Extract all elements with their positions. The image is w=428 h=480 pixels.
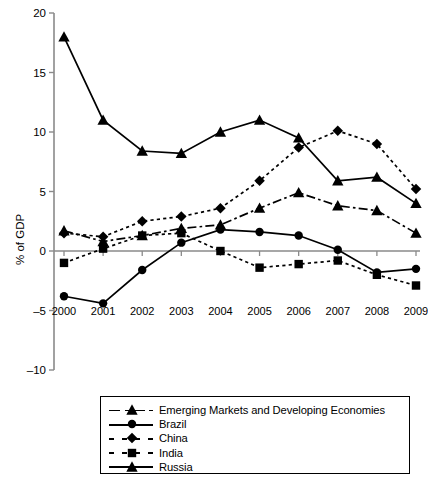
x-tick-label: 2008 <box>365 305 389 317</box>
data-point-square <box>60 259 68 267</box>
data-point-triangle <box>254 114 265 124</box>
legend-item-india[interactable]: India <box>109 446 409 460</box>
x-tick-label: 2007 <box>326 305 350 317</box>
y-tick-label: 20 <box>33 7 46 19</box>
series-china <box>59 126 422 242</box>
data-point-circle <box>60 292 68 300</box>
x-tick-label: 2002 <box>130 305 154 317</box>
legend-key-triangle-icon <box>109 403 153 417</box>
x-tick-label: 2005 <box>247 305 271 317</box>
series-emerging-markets-and-developing-economies <box>58 187 421 246</box>
data-point-square <box>412 281 420 289</box>
data-point-square <box>138 231 146 239</box>
data-point-triangle <box>332 200 343 210</box>
data-point-diamond <box>215 203 226 214</box>
legend-item-china[interactable]: China <box>109 431 409 445</box>
data-point-circle <box>138 266 146 274</box>
data-point-diamond <box>127 433 138 444</box>
legend-key-diamond-icon <box>109 431 153 445</box>
legend-item-emerging-markets-and-developing-economies[interactable]: Emerging Markets and Developing Economie… <box>109 403 409 417</box>
data-point-circle <box>334 246 342 254</box>
data-point-square <box>99 244 107 252</box>
data-point-square <box>334 256 342 264</box>
legend-label: Russia <box>159 461 193 473</box>
data-point-diamond <box>137 216 148 227</box>
x-tick-label: 2009 <box>404 305 428 317</box>
x-tick-label: 2006 <box>286 305 310 317</box>
data-point-diamond <box>59 228 70 239</box>
data-point-triangle <box>126 404 137 414</box>
series-line <box>64 131 416 237</box>
data-point-square <box>294 260 302 268</box>
legend-marker-square-icon <box>126 447 138 459</box>
legend-key-square-icon <box>109 446 153 460</box>
data-point-circle <box>294 231 302 239</box>
data-point-triangle <box>293 187 304 197</box>
y-tick-label: 5 <box>40 186 46 198</box>
y-tick-label: 15 <box>33 67 46 79</box>
data-point-circle <box>412 265 420 273</box>
series-line <box>64 193 416 242</box>
legend-label: China <box>159 432 188 444</box>
data-point-triangle <box>254 202 265 212</box>
x-tick-label: 2003 <box>169 305 193 317</box>
data-point-square <box>216 247 224 255</box>
data-point-square <box>177 229 185 237</box>
legend-marker-triangle-icon <box>126 461 138 473</box>
data-point-square <box>255 263 263 271</box>
legend-marker-circle-icon <box>126 418 138 430</box>
data-point-diamond <box>293 142 304 153</box>
data-point-triangle <box>410 227 421 237</box>
y-tick-label: 0 <box>40 245 46 257</box>
chart-container: % of GDP –10–505101520200020012002200320… <box>0 0 428 480</box>
data-point-circle <box>99 299 107 307</box>
legend-label: India <box>159 447 183 459</box>
chart-legend: Emerging Markets and Developing Economie… <box>100 396 410 474</box>
x-tick-label: 2000 <box>52 305 76 317</box>
y-tick-label: –10 <box>27 364 46 376</box>
legend-item-russia[interactable]: Russia <box>109 460 409 474</box>
data-point-triangle <box>293 132 304 142</box>
data-point-square <box>128 448 136 456</box>
data-point-triangle <box>58 31 69 41</box>
series-india <box>60 229 420 290</box>
data-point-triangle <box>97 114 108 124</box>
series-brazil <box>60 225 420 307</box>
x-tick-label: 2004 <box>208 305 232 317</box>
data-point-circle <box>216 225 224 233</box>
legend-key-triangle-icon <box>109 460 153 474</box>
series-line <box>64 233 416 285</box>
chart-svg: –10–505101520200020012002200320042005200… <box>0 0 428 390</box>
legend-marker-triangle-icon <box>126 404 138 416</box>
data-point-circle <box>177 238 185 246</box>
series-line <box>64 37 416 204</box>
data-point-square <box>373 271 381 279</box>
series-line <box>64 230 416 304</box>
legend-label: Emerging Markets and Developing Economie… <box>159 404 385 416</box>
data-point-circle <box>128 420 136 428</box>
data-point-triangle <box>371 172 382 182</box>
data-point-circle <box>255 228 263 236</box>
data-point-diamond <box>176 211 187 222</box>
series-russia <box>58 31 421 208</box>
legend-key-circle-icon <box>109 417 153 431</box>
y-tick-label: –5 <box>33 305 46 317</box>
y-axis-title: % of GDP <box>14 214 26 265</box>
data-point-triangle <box>126 461 137 471</box>
legend-marker-diamond-icon <box>126 432 138 444</box>
legend-item-brazil[interactable]: Brazil <box>109 417 409 431</box>
data-point-diamond <box>333 126 344 137</box>
y-tick-label: 10 <box>33 126 46 138</box>
plot-area: % of GDP –10–505101520200020012002200320… <box>0 0 428 390</box>
legend-label: Brazil <box>159 418 186 430</box>
data-point-triangle <box>410 198 421 208</box>
